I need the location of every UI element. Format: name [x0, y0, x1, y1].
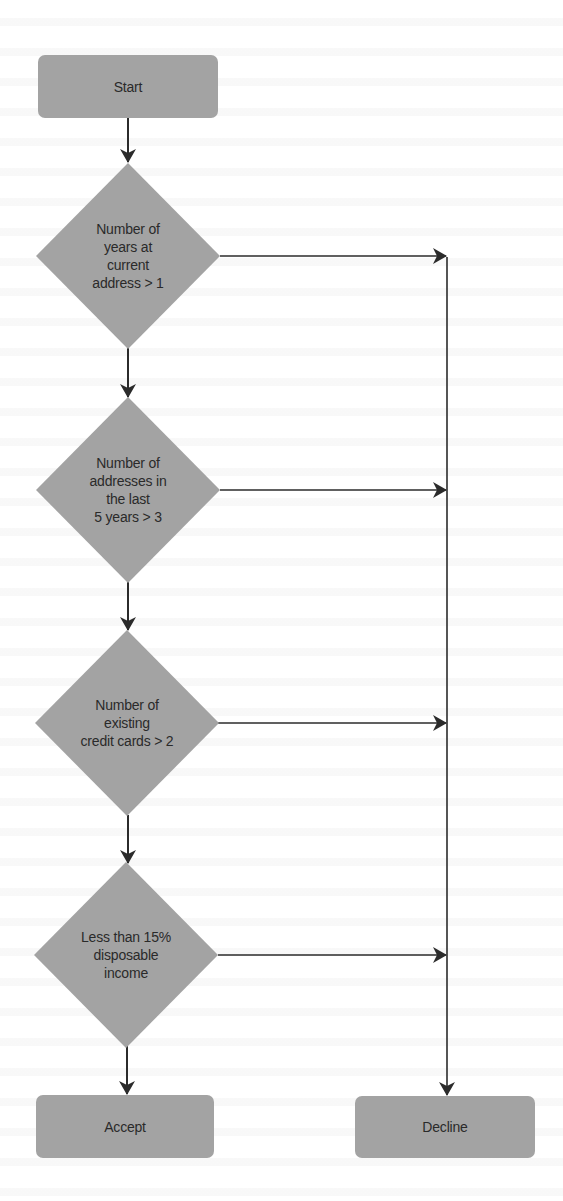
decision-label: Number of years at current address > 1 [36, 163, 220, 349]
start-label: Start [114, 79, 143, 95]
decline-label: Decline [422, 1119, 467, 1135]
decision-node-existing-credit-cards: Number of existing credit cards > 2 [35, 630, 219, 816]
decision-node-years-at-address: Number of years at current address > 1 [36, 163, 220, 349]
decision-label: Less than 15% disposable income [34, 862, 218, 1048]
decision-node-disposable-income: Less than 15% disposable income [34, 862, 218, 1048]
decision-node-addresses-last-5-years: Number of addresses in the last 5 years … [36, 397, 220, 583]
accept-node: Accept [36, 1095, 214, 1158]
decision-label: Number of existing credit cards > 2 [35, 630, 219, 816]
accept-label: Accept [104, 1119, 146, 1135]
start-node: Start [38, 55, 218, 118]
decision-label: Number of addresses in the last 5 years … [36, 397, 220, 583]
decline-node: Decline [355, 1096, 535, 1158]
flowchart-canvas: Start Number of years at current address… [0, 0, 563, 1201]
